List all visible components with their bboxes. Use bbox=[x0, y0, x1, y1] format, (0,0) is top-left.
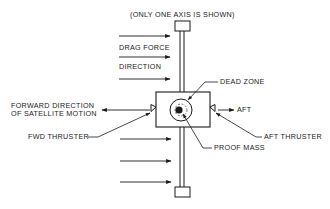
aft-thruster-icon bbox=[210, 105, 215, 112]
top-end-mass bbox=[175, 21, 190, 31]
proof-mass-label: PROOF MASS bbox=[214, 144, 265, 152]
axis-caption: (ONLY ONE AXIS IS SHOWN) bbox=[130, 11, 235, 19]
aft-thruster-label: AFT THRUSTER bbox=[264, 133, 322, 141]
drag-force-label: DRAG FORCE bbox=[119, 44, 170, 52]
direction-label: DIRECTION bbox=[119, 63, 161, 71]
forward-direction-label-line2: OF SATELLITE MOTION bbox=[11, 110, 97, 118]
dead-zone-label: DEAD ZONE bbox=[220, 78, 265, 86]
proof-mass bbox=[175, 106, 182, 113]
bottom-end-mass bbox=[175, 187, 190, 197]
fwd-thruster-label: FWD THRUSTER bbox=[28, 133, 89, 141]
fwd-thruster-icon bbox=[151, 105, 156, 112]
aft-label: AFT bbox=[237, 106, 251, 114]
